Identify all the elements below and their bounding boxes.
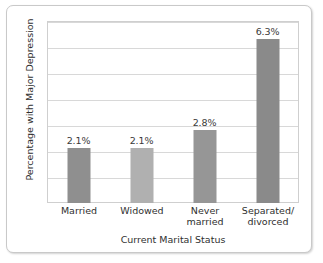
bar-separated-divorced[interactable]: [256, 39, 279, 203]
x-tick-line: Married: [43, 205, 115, 216]
x-tick-line: divorced: [232, 216, 304, 227]
bar-slot: 6.3%: [236, 21, 299, 203]
bar-value-label: 2.8%: [193, 117, 217, 128]
bar-slot: 2.8%: [173, 21, 236, 203]
bar-slot: 2.1%: [47, 21, 110, 203]
x-axis-title: Current Marital Status: [47, 234, 299, 245]
bar-value-label: 6.3%: [256, 26, 280, 37]
bar-value-label: 2.1%: [130, 135, 154, 146]
x-tick-married: Married: [43, 205, 115, 216]
chart-card: 2.1% 2.1% 2.8% 6.3% Married Widowed Neve…: [6, 5, 312, 253]
x-tick-line: married: [169, 216, 241, 227]
y-axis-title: Percentage with Major Depression: [24, 10, 35, 190]
bar-widowed[interactable]: [130, 148, 153, 203]
bar-value-label: 2.1%: [67, 135, 91, 146]
x-tick-widowed: Widowed: [106, 205, 178, 216]
x-tick-line: Never: [169, 205, 241, 216]
x-tick-never-married: Never married: [169, 205, 241, 227]
bar-married[interactable]: [67, 148, 90, 203]
x-tick-separated-divorced: Separated/ divorced: [232, 205, 304, 227]
bar-slot: 2.1%: [110, 21, 173, 203]
bars-layer: 2.1% 2.1% 2.8% 6.3%: [47, 21, 299, 203]
bar-never-married[interactable]: [193, 130, 216, 203]
x-tick-line: Separated/: [232, 205, 304, 216]
x-tick-line: Widowed: [106, 205, 178, 216]
